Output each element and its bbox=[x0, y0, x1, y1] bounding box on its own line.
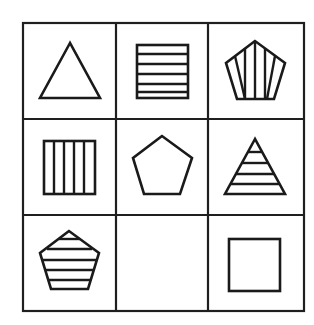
square-icon bbox=[229, 239, 280, 291]
cell-r1c2[interactable]: Square with horizontal stripes bbox=[117, 24, 208, 119]
cell-r2c2[interactable]: Empty pentagon bbox=[117, 120, 208, 215]
cell-r2c1[interactable]: Square with vertical stripes bbox=[24, 120, 116, 215]
cell-r3c2-blank[interactable]: Missing figure bbox=[117, 216, 208, 311]
answer-slot[interactable] bbox=[117, 216, 208, 311]
cell-r1c1[interactable]: Empty triangle bbox=[24, 24, 116, 119]
striped-square-horizontal-icon bbox=[137, 45, 188, 98]
cell-r1c3[interactable]: Pentagon with vertical stripes bbox=[209, 24, 304, 119]
striped-square-vertical-icon bbox=[44, 141, 95, 194]
cell-r3c1[interactable]: Pentagon with horizontal stripes bbox=[24, 216, 116, 311]
figure-matrix-puzzle: Empty triangle Square with horizontal st… bbox=[0, 0, 314, 325]
cell-r2c3[interactable]: Triangle with horizontal stripes bbox=[209, 120, 304, 215]
cell-r3c3[interactable]: Empty square bbox=[209, 216, 304, 311]
